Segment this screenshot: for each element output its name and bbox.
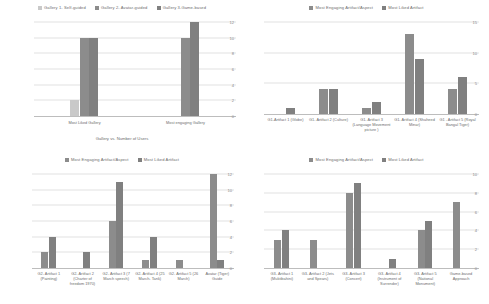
- bar-group: [200, 174, 234, 268]
- x-axis-tick-label: G1- Artifact 3 (Language Movement pictur…: [350, 117, 393, 132]
- x-axis-tick-label: G1- Artifact 2 (Culture): [307, 117, 350, 132]
- bar[interactable]: [70, 100, 79, 116]
- x-axis-tick-label: Avatar (Tiger) Guide: [200, 271, 234, 286]
- plot-area: 1086420: [252, 174, 479, 268]
- bar[interactable]: [372, 102, 381, 114]
- bar-group: [336, 174, 372, 268]
- bar[interactable]: [453, 202, 460, 268]
- bar[interactable]: [425, 221, 432, 268]
- bar[interactable]: [458, 77, 467, 114]
- bar[interactable]: [89, 38, 98, 116]
- bar-group: [264, 174, 300, 268]
- legend-item[interactable]: Most Engaging Artifact/Aspect: [309, 157, 373, 162]
- legend-swatch-icon: [38, 6, 42, 10]
- bar[interactable]: [181, 38, 190, 116]
- bar-group: [443, 174, 479, 268]
- legend-swatch-icon: [382, 6, 386, 10]
- x-axis-tick-label: G2- Artifact 1 (Painting): [32, 271, 66, 286]
- plot-area: 121086420: [20, 174, 234, 268]
- bar-group: [393, 22, 436, 114]
- x-axis-tick-label: G3- Artifact 2 (Jets and Spears): [300, 271, 336, 286]
- legend-label: Most Engaging Artifact/Aspect: [316, 5, 374, 10]
- x-axis-labels: G2- Artifact 1 (Painting)G2- Artifact 2 …: [32, 271, 234, 286]
- bar-group: [350, 22, 393, 114]
- legend-item[interactable]: Most Liked Artifact: [138, 157, 180, 162]
- x-axis-line: [32, 268, 234, 269]
- bar-group: [32, 174, 66, 268]
- x-axis-tick-label: G2- Artifact 4 (25 March- Tank): [133, 271, 167, 286]
- bar[interactable]: [109, 221, 116, 268]
- legend-label: Gallery 1- Self-guided: [44, 5, 86, 10]
- bar[interactable]: [389, 259, 396, 268]
- plot-area: 151050: [252, 22, 479, 114]
- bar-group: [135, 22, 236, 116]
- legend-item[interactable]: Most Engaging Artifact/Aspect: [65, 157, 129, 162]
- legend-label: Most Engaging Artifact/Aspect: [71, 157, 129, 162]
- bar[interactable]: [448, 89, 457, 114]
- legend-swatch-icon: [65, 158, 69, 162]
- x-axis-tick-label: G3- Artifact 3 (Concert): [336, 271, 372, 286]
- bar[interactable]: [116, 182, 123, 268]
- bar[interactable]: [83, 252, 90, 268]
- bar-group: [133, 174, 167, 268]
- bar[interactable]: [319, 89, 328, 114]
- x-axis-title: Gallery vs. Number of Users: [0, 136, 244, 141]
- legend-item[interactable]: Most Liked Artifact: [382, 157, 424, 162]
- bar-group: [34, 22, 135, 116]
- legend-label: Most Liked Artifact: [388, 157, 423, 162]
- bar[interactable]: [346, 193, 353, 268]
- bar[interactable]: [415, 59, 424, 114]
- legend-label: Most Liked Artifact: [144, 157, 179, 162]
- bar-group: [99, 174, 133, 268]
- x-axis-tick-label: Most engaging Gallery: [135, 120, 236, 125]
- legend-label: Gallery 3-Game-based: [163, 5, 206, 10]
- bar[interactable]: [329, 89, 338, 114]
- x-axis-labels: G3- Artifact 1 (Muktibahini)G3- Artifact…: [264, 271, 479, 286]
- bar[interactable]: [49, 237, 56, 268]
- bar[interactable]: [150, 237, 157, 268]
- x-axis-tick-label: G2- Artifact 5 (26 March): [167, 271, 201, 286]
- bar[interactable]: [210, 174, 217, 268]
- chart-legend: Most Engaging Artifact/AspectMost Liked …: [0, 157, 244, 162]
- legend-item[interactable]: Most Liked Artifact: [382, 5, 424, 10]
- bar-group: [407, 174, 443, 268]
- bar[interactable]: [310, 240, 317, 268]
- chart-legend: Gallery 1- Self-guidedGallery 2- Avatar-…: [0, 5, 244, 10]
- chart-grid: Gallery 1- Self-guidedGallery 2- Avatar-…: [0, 0, 489, 304]
- bar[interactable]: [274, 240, 281, 268]
- bar[interactable]: [282, 230, 289, 268]
- bar[interactable]: [80, 38, 89, 116]
- chart-panel-gallery-users: Gallery 1- Self-guidedGallery 2- Avatar-…: [0, 0, 244, 152]
- x-axis-line: [264, 114, 479, 115]
- legend-swatch-icon: [382, 158, 386, 162]
- bar[interactable]: [41, 252, 48, 268]
- bar[interactable]: [354, 183, 361, 268]
- bar[interactable]: [405, 34, 414, 114]
- legend-item[interactable]: Gallery 1- Self-guided: [38, 5, 86, 10]
- bar-container: [264, 174, 479, 268]
- x-axis-tick-label: G2- Artifact 2 (Charter of freedom 1970): [66, 271, 100, 286]
- bar[interactable]: [217, 260, 224, 268]
- legend-item[interactable]: Gallery 2- Avatar-guided: [95, 5, 148, 10]
- bar[interactable]: [142, 260, 149, 268]
- bar-group: [436, 22, 479, 114]
- bar-group: [371, 174, 407, 268]
- legend-item[interactable]: Most Engaging Artifact/Aspect: [309, 5, 373, 10]
- bar[interactable]: [190, 22, 199, 116]
- bar-container: [264, 22, 479, 114]
- legend-label: Most Liked Artifact: [388, 5, 423, 10]
- legend-label: Most Engaging Artifact/Aspect: [316, 157, 374, 162]
- legend-swatch-icon: [309, 6, 313, 10]
- chart-panel-gallery3-artifacts: Most Engaging Artifact/AspectMost Liked …: [244, 152, 489, 304]
- x-axis-tick-label: G1- Artifact 4 (Shaheed Minar): [393, 117, 436, 132]
- chart-panel-gallery1-artifacts: Most Engaging Artifact/AspectMost Liked …: [244, 0, 489, 152]
- legend-item[interactable]: Gallery 3-Game-based: [157, 5, 207, 10]
- bar[interactable]: [362, 108, 371, 114]
- bar[interactable]: [418, 230, 425, 268]
- bar[interactable]: [286, 108, 295, 114]
- legend-swatch-icon: [95, 6, 99, 10]
- legend-swatch-icon: [138, 158, 142, 162]
- bar[interactable]: [176, 260, 183, 268]
- bar-group: [66, 174, 100, 268]
- x-axis-tick-label: Game-based Approach: [443, 271, 479, 286]
